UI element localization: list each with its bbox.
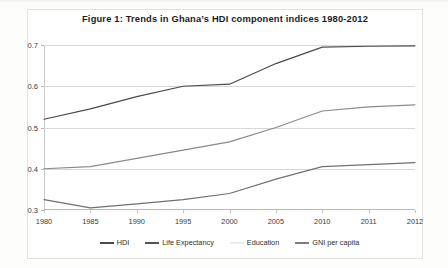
- x-axis-tick-mark: [415, 210, 416, 213]
- x-axis-tick-label: 2010: [314, 217, 330, 226]
- x-axis-tick-mark: [369, 210, 370, 213]
- legend-item-label: HDI: [117, 238, 130, 247]
- y-axis-tick-label: 0.3: [27, 206, 38, 215]
- page-title: Figure 1: Trends in Ghana’s HDI componen…: [27, 14, 423, 24]
- x-axis-tick-label: 2012: [407, 217, 423, 226]
- legend-swatch-icon: [100, 242, 114, 244]
- legend-swatch-icon: [295, 242, 309, 244]
- legend-item: Life Expectancy: [145, 238, 214, 247]
- legend-item: GNI per capita: [295, 238, 359, 247]
- series-line-life-expectancy: [44, 105, 415, 169]
- y-axis-tick-label: 0.6: [27, 82, 38, 91]
- y-axis-tick-label: 0.7: [27, 41, 38, 50]
- x-axis-tick-mark: [230, 210, 231, 213]
- x-axis-tick-mark: [137, 210, 138, 213]
- x-axis-tick-label: 1995: [175, 217, 191, 226]
- legend-swatch-icon: [145, 242, 159, 244]
- x-axis-tick-label: 1990: [129, 217, 145, 226]
- chart-plot-area: 0.30.40.50.60.71980198519901995200020052…: [44, 45, 415, 210]
- y-axis-tick-label: 0.4: [27, 164, 38, 173]
- legend-swatch-icon: [230, 242, 244, 244]
- x-axis-tick-mark: [44, 210, 45, 213]
- series-line-gni-per-capita: [44, 163, 415, 208]
- x-axis-tick-mark: [183, 210, 184, 213]
- y-axis-tick-label: 0.5: [27, 123, 38, 132]
- x-axis-tick-mark: [322, 210, 323, 213]
- x-axis-tick-label: 2011: [361, 217, 377, 226]
- chart-series-layer: [44, 45, 415, 210]
- x-axis-tick-mark: [276, 210, 277, 213]
- x-axis-tick-label: 2005: [268, 217, 284, 226]
- legend-item-label: Life Expectancy: [162, 238, 214, 247]
- x-axis-tick-mark: [90, 210, 91, 213]
- legend-item: HDI: [100, 238, 130, 247]
- x-axis-tick-label: 2000: [221, 217, 237, 226]
- legend-item-label: GNI per capita: [312, 238, 359, 247]
- x-axis-tick-label: 1985: [82, 217, 98, 226]
- legend-item: Education: [230, 238, 279, 247]
- chart-legend: HDILife ExpectancyEducationGNI per capit…: [44, 238, 415, 247]
- x-axis-tick-label: 1980: [36, 217, 52, 226]
- legend-item-label: Education: [247, 238, 279, 247]
